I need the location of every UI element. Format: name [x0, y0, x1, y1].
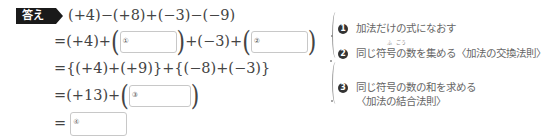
- close-paren: ): [308, 28, 317, 57]
- answer-box-3[interactable]: ③: [129, 85, 191, 107]
- open-paren: (: [120, 82, 129, 111]
- step-marker-2: 2: [338, 49, 348, 59]
- close-paren: ): [191, 82, 200, 111]
- note-1-text: 加法だけの式になおす: [356, 22, 456, 34]
- expression-line-2: =(+4)+(①)+(−3)+(②): [54, 31, 316, 53]
- brace-dot: [330, 60, 332, 62]
- expression-line-5: =④: [54, 112, 127, 136]
- answer-box-1[interactable]: ①: [120, 31, 177, 53]
- close-paren: ): [177, 28, 186, 57]
- box-number-3: ③: [132, 85, 138, 105]
- expression-line-3: ={(+4)+(+9)}+{(−8)+(−3)}: [54, 58, 270, 78]
- step-marker-3: 3: [338, 83, 348, 93]
- step-marker-1: 1: [338, 24, 348, 34]
- answer-box-2[interactable]: ②: [251, 31, 308, 53]
- note-1: 1加法だけの式になおす: [338, 20, 456, 35]
- brace-dot: [331, 100, 333, 102]
- open-paren: (: [242, 28, 251, 57]
- brace-dot: [331, 35, 333, 37]
- line5-prefix: =: [54, 115, 66, 131]
- line2-prefix: =(+4)+: [54, 33, 111, 49]
- ruby-fu: ふ: [387, 38, 392, 45]
- note-3: 3同じ符号の数の和を求める: [338, 79, 476, 94]
- note-3-text: 同じ符号の数の和を求める: [356, 81, 476, 93]
- note-3-line2: 〈加法の結合法則〉: [356, 93, 446, 108]
- line2-middle: +(−3)+: [185, 33, 242, 49]
- line4-prefix: =(+13)+: [54, 87, 120, 103]
- note-2-text: 同じ符号の数を集める〈加法の交換法則〉: [356, 47, 542, 59]
- open-paren: (: [111, 28, 120, 57]
- note-2: 2同じ符号の数を集める〈加法の交換法則〉: [338, 45, 542, 60]
- expression-line-1: (+4)−(+8)+(−3)−(−9): [68, 5, 235, 25]
- box-number-1: ①: [123, 31, 129, 51]
- ruby-gou: ごう: [396, 38, 406, 45]
- answer-box-4[interactable]: ④: [70, 112, 127, 136]
- answer-badge: 答え: [16, 8, 56, 24]
- box-number-2: ②: [254, 31, 260, 51]
- expression-line-4: =(+13)+(③): [54, 85, 199, 107]
- box-number-4: ④: [73, 112, 79, 132]
- answer-label: 答え: [22, 9, 44, 22]
